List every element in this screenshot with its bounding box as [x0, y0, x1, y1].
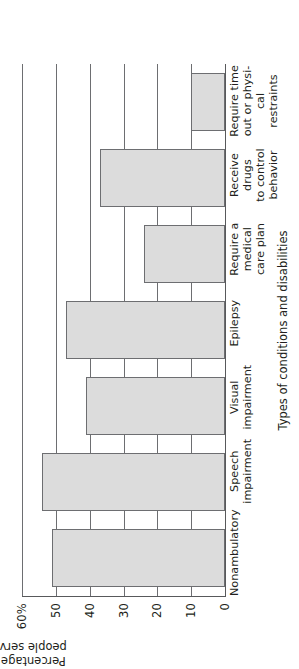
bar-slot: [22, 292, 225, 368]
plot-frame: 0102030405060%: [22, 64, 226, 597]
x-axis-category-label-line: medical: [241, 213, 254, 285]
y-axis-tick-label: 50: [49, 603, 63, 637]
y-axis-tick-label: 30: [117, 603, 131, 637]
bar-slot: [22, 140, 225, 216]
x-axis-category-label: Require amedicalcare plan: [228, 212, 280, 286]
y-axis-title-line2: people served: [0, 640, 96, 654]
x-axis-category-label-line: Epilepsy: [228, 287, 241, 359]
bar-slot: [22, 64, 225, 140]
x-axis-category-label-line: Nonambulatory: [228, 509, 241, 596]
x-axis-category-label-line: Speech: [228, 435, 241, 507]
bar-slot: [22, 520, 225, 596]
bar: [52, 529, 225, 587]
bar: [144, 225, 225, 283]
bar: [191, 73, 225, 131]
y-axis-tick-label: 40: [83, 603, 97, 637]
bar: [100, 149, 225, 207]
x-axis-category-labels: NonambulatorySpeechimpairmentVisualimpai…: [228, 64, 280, 597]
plot-area: 0102030405060%: [22, 64, 226, 597]
x-axis-category-label: Speechimpairment: [228, 434, 280, 508]
bar: [42, 453, 225, 511]
bar-chart-figure: 0102030405060% Percentage of people serv…: [0, 0, 299, 669]
y-axis-title-line1: Percentage of: [0, 654, 96, 668]
x-axis-category-label-line: impairment: [241, 435, 254, 507]
y-axis-tick-label: 20: [150, 603, 164, 637]
bar-slot: [22, 444, 225, 520]
x-axis-title: Types of conditions and disabilities: [276, 64, 290, 597]
x-axis-category-label: Epilepsy: [228, 286, 280, 360]
bar: [86, 377, 225, 435]
y-axis-title: Percentage of people served: [0, 640, 96, 667]
x-axis-category-label: Require timeout or physi-cal restraints: [228, 64, 280, 138]
x-axis-category-label-line: Require time: [228, 65, 241, 137]
bar-slot: [22, 368, 225, 444]
x-axis-category-label: Nonambulatory: [228, 508, 280, 597]
y-axis-tick-label: 0: [218, 603, 232, 637]
x-axis-category-label-line: Receive drugs: [228, 139, 254, 211]
x-axis-category-label-line: Require a: [228, 213, 241, 285]
x-axis-category-label-line: care plan: [254, 213, 267, 285]
x-axis-category-label-line: out or physi-: [241, 65, 254, 137]
x-axis-category-label-line: to control: [254, 139, 267, 211]
x-axis-category-label-line: Visual: [228, 361, 241, 433]
x-axis-category-label: Visualimpairment: [228, 360, 280, 434]
bar: [66, 301, 225, 359]
y-axis-tick-label: 60%: [15, 603, 29, 637]
x-axis-category-label: Receive drugsto controlbehavior: [228, 138, 280, 212]
x-axis-category-label-line: impairment: [241, 361, 254, 433]
y-axis-tick-label: 10: [184, 603, 198, 637]
bar-series: [22, 64, 225, 596]
bar-slot: [22, 216, 225, 292]
